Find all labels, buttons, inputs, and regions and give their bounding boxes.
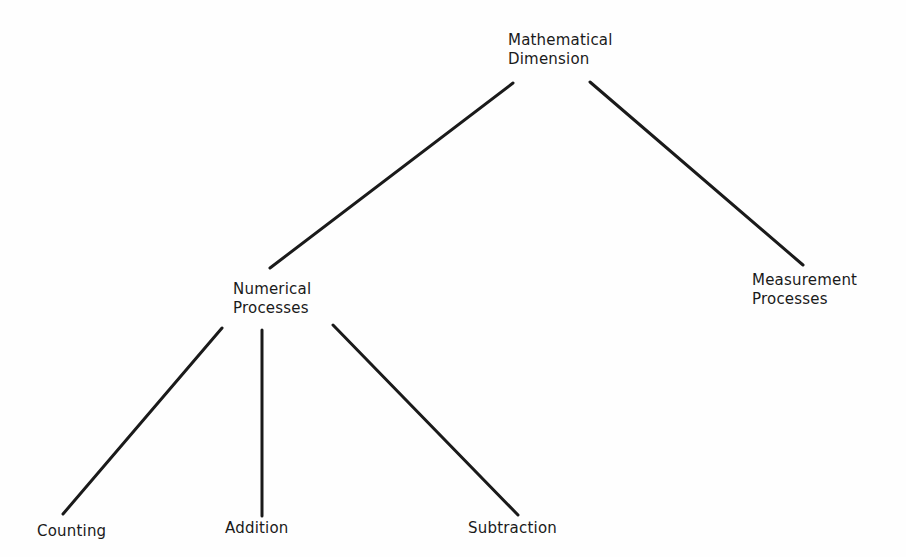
node-addition: Addition — [225, 519, 289, 538]
node-label-line1: Measurement — [752, 271, 857, 290]
node-label-line1: Mathematical — [508, 31, 613, 50]
node-mathematical-dimension: Mathematical Dimension — [508, 31, 613, 69]
node-subtraction: Subtraction — [468, 519, 557, 538]
node-label-line2: Processes — [752, 290, 857, 309]
node-counting: Counting — [37, 522, 106, 541]
edge-math-to-measurement — [590, 82, 803, 265]
node-label-line2: Processes — [233, 299, 311, 318]
diagram-canvas: Mathematical Dimension Numerical Process… — [0, 0, 906, 557]
node-measurement-processes: Measurement Processes — [752, 271, 857, 309]
edge-math-to-numerical — [270, 83, 513, 268]
node-label-line2: Dimension — [508, 50, 613, 69]
edge-numerical-to-subtraction — [333, 325, 518, 515]
node-label: Subtraction — [468, 519, 557, 538]
node-label: Counting — [37, 522, 106, 541]
node-label-line1: Numerical — [233, 280, 311, 299]
edge-numerical-to-counting — [63, 328, 222, 514]
node-label: Addition — [225, 519, 289, 538]
node-numerical-processes: Numerical Processes — [233, 280, 311, 318]
